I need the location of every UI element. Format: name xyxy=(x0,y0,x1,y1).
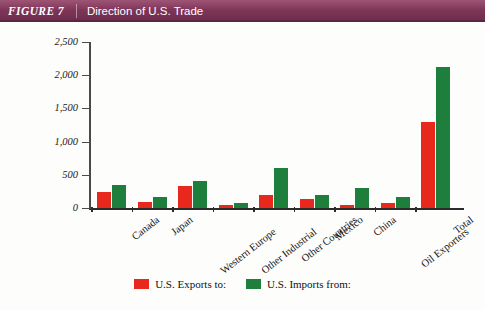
figure-container: FIGURE 7 Direction of U.S. Trade 2,5002,… xyxy=(0,0,485,310)
figure-title: Direction of U.S. Trade xyxy=(87,5,203,17)
legend-label: U.S. Exports to: xyxy=(155,278,226,290)
y-axis-tick-label: 1,000 xyxy=(30,136,78,147)
bar-group xyxy=(381,42,410,208)
bar-group xyxy=(138,42,167,208)
bar-exports xyxy=(178,186,192,208)
y-axis-tick-label-wrap: 1,000 xyxy=(26,136,78,148)
x-axis-label: Canada xyxy=(130,214,162,242)
bar-imports xyxy=(436,67,450,208)
x-axis-label: China xyxy=(371,214,398,238)
x-axis-labels: CanadaJapanWestern EuropeOther Industria… xyxy=(89,212,479,278)
bars-layer xyxy=(89,22,464,210)
y-axis-tick-label-wrap: 2,500 xyxy=(26,36,78,48)
bar-group xyxy=(178,42,207,208)
legend-swatch-imports xyxy=(246,279,261,289)
figure-number: FIGURE 7 xyxy=(8,5,64,17)
y-axis-tick-label: 500 xyxy=(30,169,78,180)
y-axis-tick-label: 2,500 xyxy=(30,36,78,47)
bar-imports xyxy=(234,203,248,208)
bar-group xyxy=(97,42,126,208)
bar-exports xyxy=(300,199,314,208)
legend-swatch-exports xyxy=(134,279,149,289)
bar-group xyxy=(259,42,288,208)
bar-exports xyxy=(219,205,233,208)
bar-imports xyxy=(193,181,207,208)
y-axis-tick-label-wrap: 2,000 xyxy=(26,69,78,81)
legend-label: U.S. Imports from: xyxy=(267,278,351,290)
y-axis-tick-label: 2,000 xyxy=(30,69,78,80)
y-axis-tick-label-wrap: 1,500 xyxy=(26,102,78,114)
bar-imports xyxy=(274,168,288,208)
y-axis-tick-label-wrap: 500 xyxy=(26,169,78,181)
bar-imports xyxy=(315,195,329,208)
bar-imports xyxy=(396,197,410,208)
bar-exports xyxy=(381,203,395,208)
bar-group xyxy=(300,42,329,208)
bar-imports xyxy=(153,197,167,208)
bar-exports xyxy=(421,122,435,208)
bar-imports xyxy=(112,185,126,208)
bar-exports xyxy=(97,192,111,208)
bar-exports xyxy=(340,205,354,208)
bar-imports xyxy=(355,188,369,208)
y-axis-tick-label-wrap: 0 xyxy=(26,202,78,214)
bar-group xyxy=(421,42,450,208)
chart-legend: U.S. Exports to:U.S. Imports from: xyxy=(0,278,485,290)
x-axis-label: Japan xyxy=(169,214,195,237)
header-divider xyxy=(76,4,77,18)
y-axis-tick-label: 0 xyxy=(30,202,78,213)
bar-exports xyxy=(138,202,152,208)
y-axis-tick-label: 1,500 xyxy=(30,102,78,113)
bar-group xyxy=(340,42,369,208)
legend-item: U.S. Imports from: xyxy=(246,278,351,290)
plot-area: 2,5002,0001,5001,0005000 CanadaJapanWest… xyxy=(0,22,485,310)
bar-exports xyxy=(259,195,273,208)
figure-header-band: FIGURE 7 Direction of U.S. Trade xyxy=(0,0,485,22)
bar-group xyxy=(219,42,248,208)
legend-item: U.S. Exports to: xyxy=(134,278,226,290)
